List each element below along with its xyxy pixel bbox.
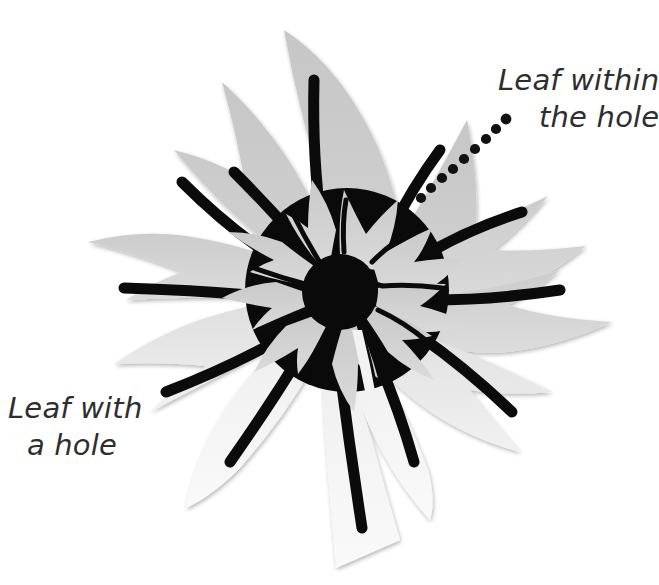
- leader-dot: [459, 154, 469, 164]
- inner-vein: [382, 285, 442, 288]
- annotation-line-1: Leaf with: [8, 391, 143, 425]
- leader-dot: [481, 134, 491, 144]
- inner-vein: [343, 200, 346, 252]
- annotation-leaf-within-the-hole: Leaf within the hole: [498, 62, 659, 136]
- annotation-leaf-with-a-hole: Leaf with a hole: [8, 390, 136, 464]
- leader-dot: [470, 144, 480, 154]
- annotation-line-2: the hole: [498, 99, 659, 136]
- annotation-line-2: a hole: [8, 427, 136, 464]
- leader-dot: [437, 173, 447, 183]
- leader-dot: [416, 193, 426, 203]
- inner-black-core: [302, 254, 378, 330]
- leader-dot: [448, 164, 458, 174]
- annotation-line-1: Leaf within: [498, 63, 659, 97]
- leader-dot: [426, 183, 436, 193]
